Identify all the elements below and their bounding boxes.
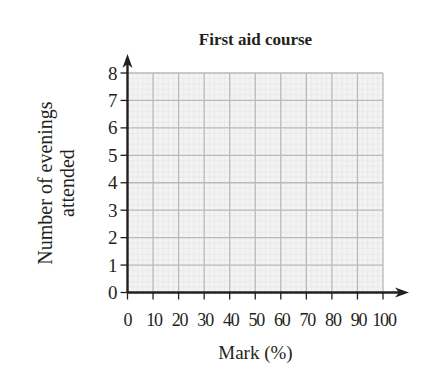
- y-tick-label: 7: [108, 90, 118, 111]
- x-tick-label: 30: [197, 310, 214, 330]
- y-tick-label: 4: [108, 172, 118, 193]
- y-tick-label: 5: [108, 145, 118, 166]
- x-tick-label: 20: [172, 310, 189, 330]
- x-tick-label: 60: [274, 310, 291, 330]
- y-tick-label: 3: [108, 200, 118, 221]
- chart-plot: 012345678 0102030405060708090100: [0, 0, 434, 387]
- y-tick-label: 8: [108, 63, 118, 84]
- x-tick-label: 50: [248, 310, 265, 330]
- x-tick-label: 0: [124, 310, 133, 330]
- x-tick-label: 90: [351, 310, 368, 330]
- x-tick-label: 10: [146, 310, 163, 330]
- y-tick-label: 0: [108, 282, 118, 303]
- x-tick-label: 40: [223, 310, 240, 330]
- y-tick-label: 1: [108, 255, 118, 276]
- x-tick-label: 80: [325, 310, 342, 330]
- x-tick-label: 70: [300, 310, 317, 330]
- y-tick-label: 6: [108, 117, 118, 138]
- x-axis-ticks: 0102030405060708090100: [124, 293, 397, 331]
- x-tick-label: 100: [372, 310, 397, 330]
- y-axis-ticks: 012345678: [108, 63, 128, 304]
- x-axis-label: Mark (%): [128, 342, 383, 364]
- y-tick-label: 2: [108, 227, 118, 248]
